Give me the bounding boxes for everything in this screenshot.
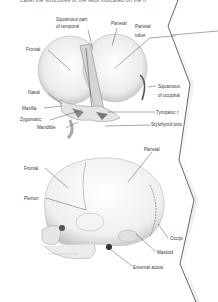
label-parietal-bottom: Parietal [144, 147, 160, 153]
label-squamous-occipital-2: of occipital [158, 93, 180, 99]
textbook-page: Label the structures of the skull indica… [0, 0, 218, 302]
label-occipital: Occipi [170, 236, 183, 242]
label-of-temporal: of temporal [56, 24, 79, 30]
label-pterion: Pterion [24, 196, 39, 202]
label-squamous-occipital-1: Squamous [158, 84, 180, 90]
label-external-acoustic: External acous [133, 265, 163, 271]
label-parietal-tuber-2: tuber [135, 33, 145, 39]
label-mastoid: Mastoid [157, 250, 173, 256]
label-zygomatic: Zygomatic [20, 117, 41, 123]
label-squamous-part: Squamous part [56, 17, 87, 23]
infant-skull-lateral [42, 158, 164, 259]
label-tympanic: Tympanic r [156, 110, 178, 116]
label-styloid: Stylohyoid proc [151, 122, 182, 128]
label-parietal-tuber-1: Parietal [135, 24, 151, 30]
label-nasal: Nasal [28, 90, 40, 96]
label-mandible: Mandible [37, 125, 56, 131]
torn-page-edge [168, 0, 218, 302]
label-frontal-bottom: Frontal [24, 166, 38, 172]
skull-illustration [0, 0, 218, 302]
label-maxilla: Maxilla [22, 106, 36, 112]
label-parietal-top: Parietal [111, 21, 127, 27]
label-frontal-top: Frontal [26, 47, 40, 53]
infant-skull-anterior [38, 34, 147, 138]
